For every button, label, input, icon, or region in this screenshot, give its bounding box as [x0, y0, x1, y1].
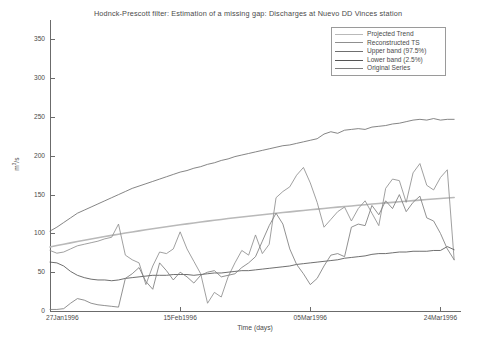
legend-item-label: Lower band (2.5%): [367, 56, 423, 65]
legend-swatch-line-icon: [335, 51, 363, 52]
x-tick-label: 05Mar1996: [294, 314, 327, 321]
y-tick-label: 250: [19, 113, 45, 120]
data-series-group: [50, 119, 454, 310]
x-tick-label: 15Feb1996: [163, 314, 196, 321]
x-tick-label: 27Jan1996: [46, 314, 79, 321]
y-tick-label: 350: [19, 35, 45, 42]
x-tick-label: 24Mar1996: [424, 314, 457, 321]
legend-item-label: Projected Trend: [367, 30, 414, 39]
series-line-lower-band-2-5: [50, 247, 454, 281]
y-axis-label-text: m3/s: [13, 158, 20, 171]
legend-item[interactable]: Reconstructed TS: [335, 39, 442, 48]
y-axis-label: m3/s: [12, 144, 20, 184]
series-line-original-series: [50, 195, 454, 310]
y-tick-label: 300: [19, 74, 45, 81]
legend-item-label: Upper band (97.5%): [367, 47, 426, 56]
series-line-upper-band-97-5: [50, 119, 454, 232]
legend-swatch-line-icon: [335, 34, 363, 36]
series-line-reconstructed-ts: [50, 164, 454, 304]
legend-item-label: Original Series: [367, 64, 410, 73]
series-line-projected-trend: [50, 197, 454, 247]
y-tick-label: 100: [19, 229, 45, 236]
chart-figure: Hodnck-Prescott filter: Estimation of a …: [0, 0, 496, 345]
legend-item[interactable]: Original Series: [335, 64, 442, 73]
y-tick-label: 150: [19, 191, 45, 198]
y-tick-label: 50: [19, 268, 45, 275]
legend-swatch-line-icon: [335, 68, 363, 69]
legend-item[interactable]: Upper band (97.5%): [335, 47, 442, 56]
y-tick-label: 200: [19, 152, 45, 159]
legend-item[interactable]: Lower band (2.5%): [335, 56, 442, 65]
legend-item-label: Reconstructed TS: [367, 39, 420, 48]
legend-item[interactable]: Projected Trend: [335, 30, 442, 39]
y-tick-label: 0: [19, 307, 45, 314]
legend-swatch-line-icon: [335, 60, 363, 61]
x-axis-label: Time (days): [50, 324, 460, 331]
chart-legend: Projected TrendReconstructed TSUpper ban…: [331, 27, 446, 76]
legend-swatch-line-icon: [335, 42, 363, 43]
